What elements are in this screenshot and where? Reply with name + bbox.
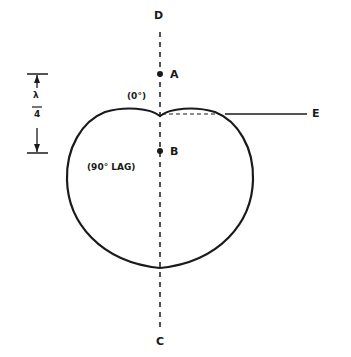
axis-label-c: C xyxy=(156,336,164,347)
diagram-canvas: D C E A B (0°) (90° LAG) λ 4 xyxy=(0,0,351,357)
spacing-numerator: λ xyxy=(33,91,39,100)
pointer-label-e: E xyxy=(312,108,320,119)
element-a-dot xyxy=(157,71,163,77)
diagram-graphics xyxy=(0,0,351,357)
phase-label-b: (90° LAG) xyxy=(87,163,135,172)
element-label-b: B xyxy=(170,146,178,157)
element-label-a: A xyxy=(170,69,179,80)
element-b-dot xyxy=(157,148,163,154)
axis-label-d: D xyxy=(154,10,163,21)
phase-label-a: (0°) xyxy=(127,92,146,101)
spacing-denominator: 4 xyxy=(34,110,40,119)
